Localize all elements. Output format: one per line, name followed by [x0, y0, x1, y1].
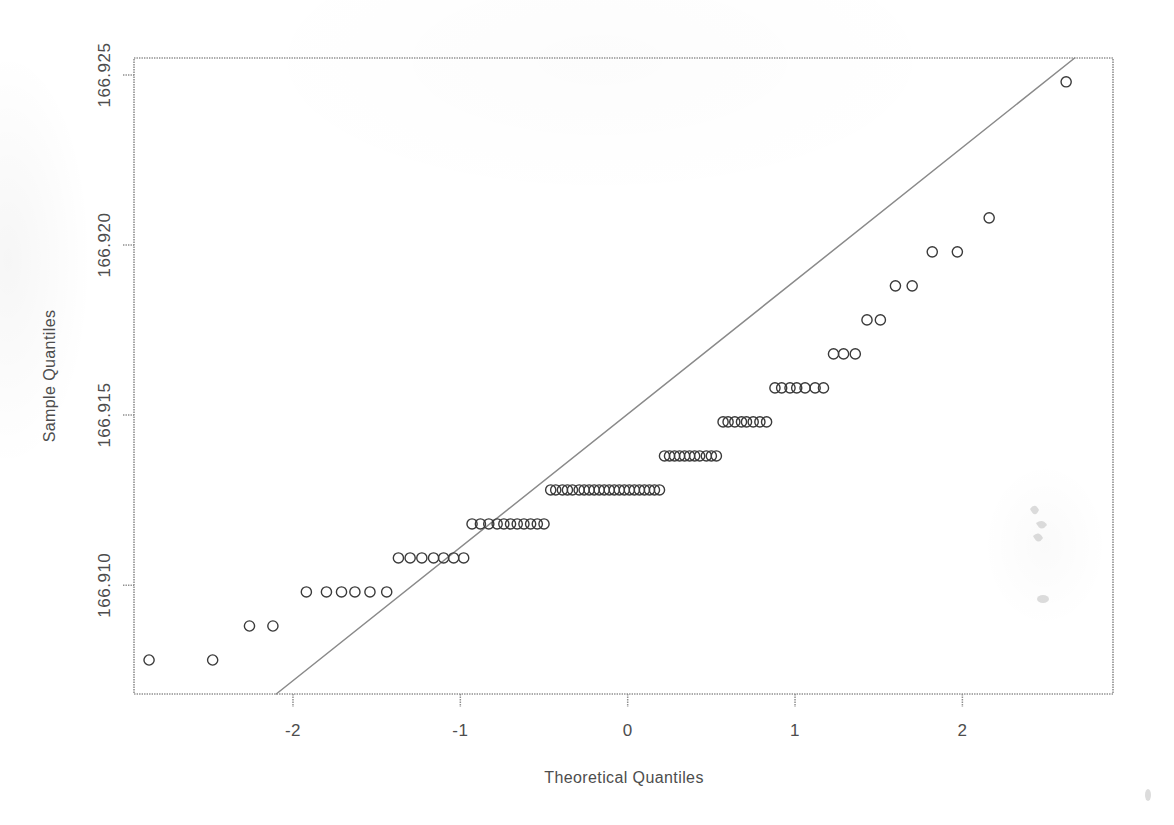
data-point: [301, 587, 311, 597]
x-tick-label: -2: [285, 721, 301, 740]
scan-speck-4: [1037, 595, 1049, 603]
y-axis-title: Sample Quantiles: [41, 310, 58, 443]
data-point: [382, 587, 392, 597]
y-tick-label: 166.920: [95, 213, 114, 278]
reference-line-group: [276, 58, 1074, 694]
data-point: [144, 655, 154, 665]
y-tick-label: 166.915: [95, 383, 114, 448]
data-point: [208, 655, 218, 665]
data-point: [875, 315, 885, 325]
data-point: [907, 281, 917, 291]
data-point: [862, 315, 872, 325]
qq-plot-figure: 166.910166.915166.920166.925 -2-1012 The…: [0, 0, 1174, 825]
x-tick-label: 2: [957, 721, 967, 740]
scan-speck-2: [1036, 521, 1047, 529]
data-point: [952, 247, 962, 257]
data-point: [1061, 77, 1071, 87]
data-point: [459, 553, 469, 563]
data-point: [393, 553, 403, 563]
data-point: [405, 553, 415, 563]
y-tick-label: 166.910: [95, 553, 114, 618]
data-point: [268, 621, 278, 631]
plot-frame: [134, 58, 1113, 694]
data-point: [244, 621, 254, 631]
data-point: [838, 349, 848, 359]
data-points-layer: [144, 77, 1071, 665]
data-point: [761, 417, 771, 427]
y-tick-label: 166.925: [95, 43, 114, 108]
x-axis: -2-1012: [285, 694, 967, 740]
scan-speck-1: [1030, 506, 1039, 515]
scan-speck-3: [1033, 533, 1043, 541]
x-tick-label: -1: [452, 721, 468, 740]
data-point: [350, 587, 360, 597]
data-point: [890, 281, 900, 291]
data-point: [336, 587, 346, 597]
data-point: [321, 587, 331, 597]
data-point: [850, 349, 860, 359]
plot-box-border: [134, 58, 1113, 694]
x-tick-label: 1: [790, 721, 800, 740]
data-point: [365, 587, 375, 597]
qq-plot-canvas: 166.910166.915166.920166.925 -2-1012 The…: [0, 0, 1174, 825]
data-point: [417, 553, 427, 563]
data-point: [428, 553, 438, 563]
x-axis-title: Theoretical Quantiles: [544, 769, 704, 786]
qq-reference-line: [276, 58, 1074, 694]
data-point: [828, 349, 838, 359]
data-point: [984, 213, 994, 223]
data-point: [449, 553, 459, 563]
y-axis: 166.910166.915166.920166.925: [95, 43, 134, 618]
x-tick-label: 0: [623, 721, 633, 740]
scan-artifacts: [1030, 506, 1151, 801]
data-point: [539, 519, 549, 529]
data-point: [927, 247, 937, 257]
scan-speck-5: [1145, 789, 1151, 801]
